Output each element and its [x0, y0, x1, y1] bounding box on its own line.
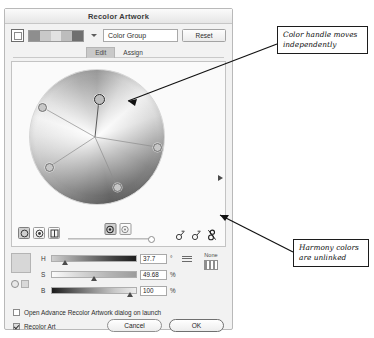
- color-handle-primary[interactable]: [94, 94, 105, 105]
- harmony-spokes: [29, 69, 165, 205]
- color-mode-icon[interactable]: [11, 280, 19, 288]
- add-color-icon[interactable]: [104, 223, 116, 235]
- color-mode-menu-icon[interactable]: [182, 255, 192, 263]
- dialog-title: Recolor Artwork: [88, 12, 149, 21]
- hsb-label-h: H: [41, 255, 48, 262]
- color-handle-5[interactable]: [153, 143, 162, 152]
- active-color-swatch-inner: [14, 32, 22, 40]
- launch-dialog-label: Open Advance Recolor Artwork dialog on l…: [24, 309, 161, 316]
- annotation-color-handle: Color handle moves independently: [277, 26, 368, 54]
- hsb-label-b: B: [41, 287, 48, 294]
- hsb-row-s: S49.68%: [41, 268, 192, 281]
- hsb-track-b[interactable]: [51, 287, 137, 294]
- smooth-wheel-icon[interactable]: [18, 227, 30, 239]
- color-group-dropdown-button[interactable]: [88, 30, 99, 42]
- hsb-track-h[interactable]: [51, 255, 137, 262]
- hsb-track-s[interactable]: [51, 271, 137, 278]
- dialog-buttons: Cancel OK: [60, 319, 224, 332]
- screenshot-root: Recolor Artwork Color Group Reset Edit A…: [0, 0, 374, 338]
- color-mode-swatch[interactable]: [21, 280, 29, 288]
- harmony-link-icons: [175, 227, 217, 239]
- annotation-harmony-unlinked-line1: Harmony colors: [299, 243, 364, 253]
- spacer: [182, 287, 192, 295]
- color-group-swatch-strip[interactable]: [28, 30, 84, 42]
- annotation-harmony-unlinked-line2: are unlinked: [299, 253, 364, 263]
- hsb-left-column: [11, 252, 37, 300]
- wheel-toolbar: [12, 223, 225, 243]
- tab-assign[interactable]: Assign: [115, 48, 151, 59]
- wheel-size-slider-track[interactable]: [68, 238, 151, 240]
- none-column: None: [196, 252, 226, 300]
- reset-button[interactable]: Reset: [182, 29, 226, 42]
- spacer: [182, 271, 192, 279]
- swatch-segment-0[interactable]: [29, 31, 40, 41]
- color-group-name-field[interactable]: Color Group: [103, 29, 178, 42]
- none-swatch-icon[interactable]: [204, 260, 218, 270]
- panel-expand-arrow-icon[interactable]: [218, 175, 223, 181]
- swatch-segment-3[interactable]: [61, 31, 72, 41]
- wheel-view-modes: [18, 227, 60, 239]
- recolor-artwork-dialog: Recolor Artwork Color Group Reset Edit A…: [4, 8, 233, 330]
- hsb-unit-b: %: [170, 287, 179, 294]
- color-wheel-panel: [11, 61, 226, 247]
- link-harmony-colors-alt-icon[interactable]: [191, 227, 201, 239]
- annotation-color-handle-line1: Color handle moves: [283, 30, 363, 40]
- hsb-value-b[interactable]: 100: [140, 286, 167, 296]
- hsb-slider-rows: H37.7°S49.68%B100%: [41, 252, 192, 300]
- dialog-footer: Open Advance Recolor Artwork dialog on l…: [13, 309, 224, 332]
- chevron-down-icon: [91, 34, 97, 37]
- color-bars-icon[interactable]: [48, 227, 60, 239]
- hsb-unit-s: %: [170, 271, 179, 278]
- swatch-segment-1[interactable]: [40, 31, 51, 41]
- hsb-label-s: S: [41, 271, 48, 278]
- wheel-mid-icons: [104, 223, 131, 235]
- hsb-thumb-b[interactable]: [127, 292, 133, 297]
- hsb-thumb-h[interactable]: [62, 260, 68, 265]
- segmented-wheel-icon[interactable]: [33, 227, 45, 239]
- swatch-segment-4[interactable]: [72, 31, 83, 41]
- remove-color-icon[interactable]: [119, 223, 131, 235]
- none-label: None: [204, 252, 217, 258]
- hsb-value-s[interactable]: 49.68: [140, 270, 167, 280]
- recolor-art-checkbox[interactable]: [13, 323, 20, 330]
- ok-button[interactable]: OK: [169, 319, 224, 332]
- wheel-size-slider-area: [64, 223, 171, 243]
- hsb-unit-h: °: [170, 255, 179, 262]
- hsb-row-h: H37.7°: [41, 252, 192, 265]
- dialog-topbar: Color Group Reset: [5, 24, 232, 46]
- dialog-titlebar: Recolor Artwork: [5, 9, 232, 24]
- recolor-art-checkbox-row[interactable]: Recolor Art Cancel OK: [13, 321, 224, 332]
- color-handle-3[interactable]: [45, 163, 54, 172]
- hsb-thumb-s[interactable]: [91, 276, 97, 281]
- recolor-art-label: Recolor Art: [24, 323, 56, 330]
- dialog-tabs: Edit Assign: [5, 46, 232, 58]
- wheel-size-slider-knob[interactable]: [148, 236, 155, 243]
- color-handle-4[interactable]: [113, 183, 122, 192]
- color-mode-row: [11, 280, 37, 288]
- cancel-button[interactable]: Cancel: [107, 319, 162, 332]
- unlink-harmony-colors-icon[interactable]: [207, 227, 217, 239]
- launch-dialog-checkbox[interactable]: [13, 309, 20, 316]
- hsb-controls: H37.7°S49.68%B100% None: [11, 252, 226, 300]
- link-harmony-colors-icon[interactable]: [175, 227, 185, 239]
- color-handle-2[interactable]: [38, 103, 47, 112]
- launch-dialog-checkbox-row[interactable]: Open Advance Recolor Artwork dialog on l…: [13, 309, 224, 316]
- color-wheel[interactable]: [29, 69, 165, 205]
- swatch-segment-2[interactable]: [51, 31, 62, 41]
- active-color-swatch[interactable]: [11, 29, 24, 42]
- tab-edit[interactable]: Edit: [86, 47, 115, 59]
- hsb-row-b: B100%: [41, 284, 192, 297]
- annotation-harmony-unlinked: Harmony colors are unlinked: [293, 239, 369, 267]
- hsb-value-h[interactable]: 37.7: [140, 254, 167, 264]
- current-color-preview[interactable]: [11, 253, 31, 273]
- annotation-color-handle-line2: independently: [283, 40, 363, 50]
